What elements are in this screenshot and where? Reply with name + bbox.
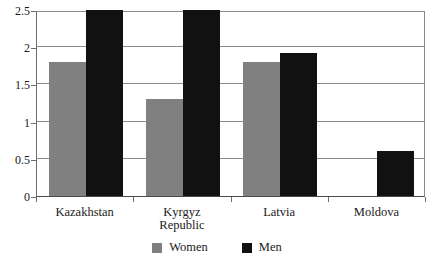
bar-group bbox=[329, 12, 426, 196]
chart-title bbox=[0, 0, 434, 1]
bar-group bbox=[232, 12, 329, 196]
x-axis-category-label-line: Republic bbox=[133, 219, 230, 232]
x-axis-category-label: Latvia bbox=[231, 206, 328, 219]
y-axis-tick-label: 2 bbox=[0, 42, 30, 54]
bar-men bbox=[86, 10, 123, 196]
bar-group bbox=[37, 12, 134, 196]
legend-label: Women bbox=[169, 241, 208, 254]
plot-area bbox=[36, 11, 425, 197]
legend-item[interactable]: Men bbox=[242, 241, 282, 254]
bar-women bbox=[243, 62, 280, 196]
legend-item[interactable]: Women bbox=[152, 241, 208, 254]
x-axis-category-label: KyrgyzRepublic bbox=[133, 206, 230, 232]
x-axis-category-label-line: Kazakhstan bbox=[36, 206, 133, 219]
x-axis-tick-mark bbox=[133, 197, 134, 202]
x-axis-tick-mark bbox=[231, 197, 232, 202]
x-axis-tick-mark bbox=[36, 197, 37, 202]
x-axis-category-label-line: Latvia bbox=[231, 206, 328, 219]
x-axis-category-label-line: Moldova bbox=[328, 206, 425, 219]
y-axis-tick-label: 1.5 bbox=[0, 79, 30, 91]
bar-men bbox=[377, 151, 414, 196]
x-axis-category-label: Kazakhstan bbox=[36, 206, 133, 219]
y-axis-tick-label: 0.5 bbox=[0, 154, 30, 166]
chart-legend: WomenMen bbox=[0, 241, 434, 254]
bar-chart: 00.511.522.5 KazakhstanKyrgyzRepublicLat… bbox=[0, 0, 434, 265]
legend-swatch-women bbox=[152, 243, 162, 253]
bar-group bbox=[134, 12, 231, 196]
y-axis-tick-label: 1 bbox=[0, 117, 30, 129]
x-axis-category-label: Moldova bbox=[328, 206, 425, 219]
bar-men bbox=[183, 10, 220, 196]
y-axis-tick-label: 2.5 bbox=[0, 5, 30, 17]
x-axis-tick-mark bbox=[328, 197, 329, 202]
legend-swatch-men bbox=[242, 243, 252, 253]
x-axis-tick-mark bbox=[425, 197, 426, 202]
bar-women bbox=[146, 99, 183, 196]
legend-label: Men bbox=[259, 241, 282, 254]
y-axis-tick-label: 0 bbox=[0, 191, 30, 203]
bar-men bbox=[280, 53, 317, 196]
bar-women bbox=[49, 62, 86, 196]
